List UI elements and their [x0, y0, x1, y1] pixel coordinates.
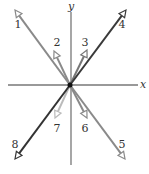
vector-label-7: 7 — [54, 122, 61, 135]
arrowhead-icon — [81, 110, 87, 118]
vector-label-2: 2 — [54, 36, 61, 49]
origin-point — [68, 83, 73, 88]
vector-shaft — [70, 85, 84, 112]
vector-label-4: 4 — [119, 18, 126, 31]
vector-shaft — [19, 85, 70, 153]
vector-8 — [15, 85, 70, 159]
vector-diagram: xy12345678 — [0, 0, 149, 174]
vector-5 — [70, 85, 125, 159]
vector-label-1: 1 — [15, 18, 22, 31]
x-axis-label: x — [140, 78, 147, 91]
vector-label-6: 6 — [82, 122, 89, 135]
vector-6 — [70, 85, 87, 118]
vector-label-8: 8 — [12, 138, 19, 151]
vector-shaft — [70, 16, 122, 85]
vector-3 — [70, 50, 87, 85]
arrowhead-icon — [55, 110, 61, 118]
labels: xy12345678 — [12, 0, 147, 151]
arrowhead-icon — [81, 50, 87, 58]
y-axis-label: y — [67, 0, 75, 13]
vector-2 — [54, 51, 70, 85]
arrowhead-icon — [54, 51, 60, 59]
vector-shaft — [70, 85, 121, 153]
vector-label-3: 3 — [82, 36, 89, 49]
vector-1 — [15, 10, 70, 85]
vector-label-5: 5 — [119, 138, 126, 151]
vector-shaft — [19, 16, 70, 85]
